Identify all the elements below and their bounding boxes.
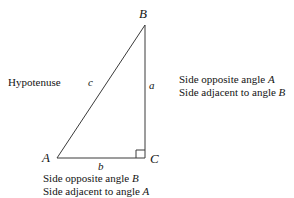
- annotation-right-line-1-text: Side opposite angle: [179, 73, 268, 85]
- annotation-bottom-line-2: Side adjacent to angle A: [43, 185, 149, 198]
- side-label-b: b: [98, 161, 104, 172]
- annotation-right-line-1-variable: A: [268, 73, 275, 85]
- side-label-a: a: [149, 80, 155, 91]
- triangle-diagram-canvas: B A C c a b Hypotenuse Side opposite ang…: [0, 0, 294, 198]
- annotation-right-line-2-text: Side adjacent to angle: [179, 86, 279, 98]
- annotation-right-line-2-variable: B: [279, 86, 286, 98]
- vertex-label-a: A: [42, 151, 50, 164]
- triangle-graphic: [0, 0, 294, 198]
- annotation-bottom-line-2-variable: A: [143, 185, 150, 197]
- right-angle-marker-icon: [136, 150, 145, 158]
- vertex-label-c: C: [150, 152, 159, 165]
- side-label-hypotenuse-c: c: [88, 77, 93, 88]
- annotation-hypotenuse: Hypotenuse: [8, 76, 61, 89]
- side-hypotenuse-line: [57, 25, 145, 158]
- annotation-bottom-line-2-text: Side adjacent to angle: [43, 185, 143, 197]
- annotation-bottom-line-1: Side opposite angle B: [43, 172, 149, 185]
- annotation-right-line-1: Side opposite angle A: [179, 73, 285, 86]
- annotation-right-line-2: Side adjacent to angle B: [179, 86, 285, 99]
- annotation-right-block: Side opposite angle A Side adjacent to a…: [179, 73, 285, 99]
- annotation-bottom-line-1-text: Side opposite angle: [43, 172, 132, 184]
- annotation-bottom-line-1-variable: B: [132, 172, 139, 184]
- vertex-label-b: B: [139, 7, 147, 20]
- annotation-bottom-block: Side opposite angle B Side adjacent to a…: [43, 172, 149, 198]
